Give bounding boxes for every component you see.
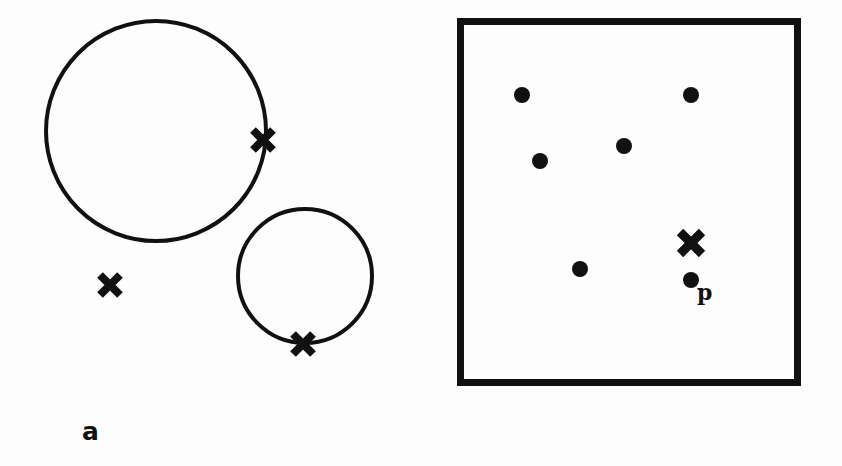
dot-4 <box>532 153 548 169</box>
panel-b-canvas <box>421 0 842 466</box>
point-label-p: p <box>697 281 712 303</box>
figure-root: a p b <box>0 0 842 466</box>
panel-label-a: a <box>82 419 99 444</box>
panel-a-canvas <box>0 0 421 466</box>
cross-free <box>100 275 120 295</box>
dot-2 <box>683 87 699 103</box>
cross-query-point <box>680 232 702 254</box>
panel-b: p b <box>421 0 842 466</box>
dot-5 <box>572 261 588 277</box>
bounding-box <box>461 22 798 383</box>
dot-1 <box>514 87 530 103</box>
dot-3 <box>616 138 632 154</box>
panel-a: a <box>0 0 421 466</box>
small-circle <box>238 209 372 343</box>
large-circle <box>46 21 266 241</box>
